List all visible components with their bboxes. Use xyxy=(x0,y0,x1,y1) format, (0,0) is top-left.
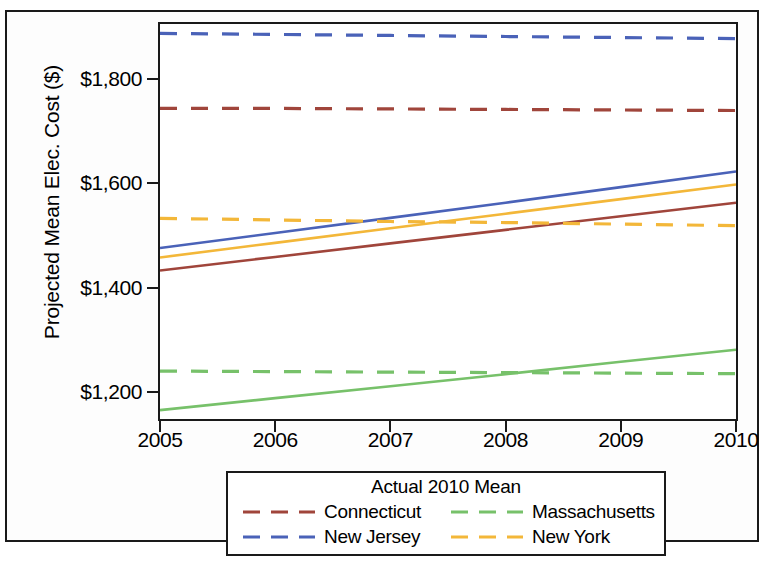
legend-label: Connecticut xyxy=(324,501,421,523)
legend-label: Massachusetts xyxy=(532,501,655,523)
legend-row: New JerseyNew York xyxy=(228,524,664,549)
x-axis-tick-mark xyxy=(274,421,276,432)
series-line-massachusetts-solid xyxy=(160,350,736,410)
y-axis-tick-mark xyxy=(147,78,158,80)
series-line-connecticut-dashed xyxy=(160,108,736,110)
legend-entries: ConnecticutMassachusettsNew JerseyNew Yo… xyxy=(228,499,664,549)
x-axis-tick-mark xyxy=(735,421,737,432)
x-axis-tick-mark xyxy=(159,421,161,432)
legend-label: New Jersey xyxy=(324,526,420,548)
legend-swatch-connecticut-icon xyxy=(242,505,316,519)
y-axis-tick-label: $1,600 xyxy=(22,171,142,195)
y-axis-tick-mark xyxy=(147,182,158,184)
chart-legend: Actual 2010 Mean ConnecticutMassachusett… xyxy=(226,471,666,556)
series-line-new-york-dashed xyxy=(160,218,736,225)
legend-row: ConnecticutMassachusetts xyxy=(228,499,664,524)
y-axis-tick-label: $1,800 xyxy=(22,67,142,91)
legend-swatch-new-york-icon xyxy=(450,530,524,544)
y-axis-tick-mark xyxy=(147,391,158,393)
x-axis-tick-mark xyxy=(620,421,622,432)
plot-area xyxy=(158,22,738,421)
chart-figure: Projected Mean Elec. Cost ($) $1,800$1,6… xyxy=(0,0,761,562)
legend-swatch-massachusetts-icon xyxy=(450,505,524,519)
legend-swatch-new-jersey-icon xyxy=(242,530,316,544)
x-axis-tick-label: 2010 xyxy=(691,428,761,452)
series-line-new-jersey-dashed xyxy=(160,33,736,38)
legend-entry-new-jersey[interactable]: New Jersey xyxy=(228,526,446,548)
plot-lines xyxy=(160,24,736,419)
series-line-massachusetts-dashed xyxy=(160,371,736,374)
y-axis-tick-mark xyxy=(147,287,158,289)
y-axis-title: Projected Mean Elec. Cost ($) xyxy=(40,2,64,402)
legend-label: New York xyxy=(532,526,610,548)
legend-entry-new-york[interactable]: New York xyxy=(446,526,664,548)
y-axis-tick-label: $1,400 xyxy=(22,276,142,300)
x-axis-tick-mark xyxy=(505,421,507,432)
y-axis-tick-label: $1,200 xyxy=(22,380,142,404)
legend-title: Actual 2010 Mean xyxy=(228,476,664,499)
legend-entry-massachusetts[interactable]: Massachusetts xyxy=(446,501,664,523)
legend-entry-connecticut[interactable]: Connecticut xyxy=(228,501,446,523)
x-axis-tick-mark xyxy=(389,421,391,432)
